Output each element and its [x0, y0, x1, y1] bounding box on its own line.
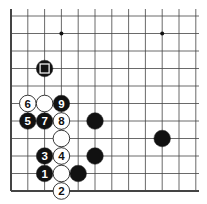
stone-circle [53, 165, 70, 182]
stone-circle [87, 148, 104, 165]
black-stone [87, 113, 104, 130]
stone-circle [36, 60, 53, 77]
stone-circle [87, 113, 104, 130]
black-stone: 9 [53, 95, 70, 112]
move-number-label: 6 [25, 98, 31, 110]
move-number-label: 7 [41, 115, 47, 127]
black-stone: 1 [36, 165, 53, 182]
white-stone [53, 130, 70, 147]
black-stone [36, 60, 53, 77]
move-number-label: 2 [58, 185, 64, 197]
black-stone: 5 [20, 113, 37, 130]
black-stone: 3 [36, 148, 53, 165]
star-point-icon [59, 32, 63, 36]
stone-circle [154, 130, 171, 147]
star-point-icon [160, 32, 164, 36]
stone-circle [70, 165, 87, 182]
white-stone: 6 [20, 95, 37, 112]
white-stone: 8 [53, 113, 70, 130]
black-stone [154, 130, 171, 147]
white-stone [36, 95, 53, 112]
move-number-label: 5 [25, 115, 32, 127]
move-number-label: 9 [58, 98, 64, 110]
black-stone [70, 165, 87, 182]
stone-circle [36, 95, 53, 112]
move-number-label: 3 [41, 150, 47, 162]
black-stone [87, 148, 104, 165]
move-number-label: 1 [41, 168, 48, 180]
white-stone: 2 [53, 183, 70, 200]
move-number-label: 8 [58, 115, 65, 127]
move-number-label: 4 [58, 150, 65, 162]
go-board: 695783412 [0, 0, 207, 204]
white-stone: 4 [53, 148, 70, 165]
white-stone [53, 165, 70, 182]
black-stone: 7 [36, 113, 53, 130]
stone-circle [53, 130, 70, 147]
